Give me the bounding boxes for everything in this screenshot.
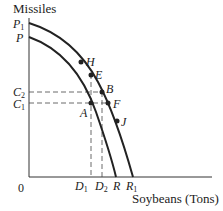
point-f [106, 101, 111, 106]
r-label: R [113, 180, 120, 192]
y-axis-title: Missiles [13, 3, 56, 15]
point-b [100, 90, 105, 95]
point-a [89, 101, 94, 106]
point-h [79, 60, 84, 65]
d1-label: D1 [75, 180, 88, 196]
j-label: J [121, 116, 126, 128]
origin-label: 0 [18, 182, 24, 194]
curve-pr [29, 37, 116, 177]
a-label: A [80, 107, 87, 119]
c1-label: C1 [13, 98, 25, 114]
e-label: E [95, 69, 102, 81]
x-axis-title: Soybeans (Tons) [132, 193, 219, 205]
r1-label: R1 [126, 180, 137, 196]
d2-label: D2 [95, 180, 108, 196]
f-label: F [113, 98, 120, 110]
p-label: P [16, 32, 23, 44]
point-j [115, 119, 120, 124]
b-label: B [106, 83, 113, 95]
point-e [89, 73, 94, 78]
ppf-diagram [0, 0, 223, 211]
h-label: H [86, 56, 95, 68]
